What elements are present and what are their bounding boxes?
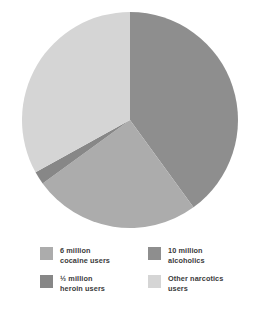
legend-item-heroin: ½ million heroin users (40, 274, 148, 302)
chart-legend: 6 million cocaine users 10 million alcoh… (0, 246, 260, 306)
legend-swatch-other-narcotics (148, 275, 161, 288)
legend-label-alcoholics: 10 million alcoholics (168, 246, 205, 267)
legend-item-other-narcotics: Other narcotics users (148, 274, 260, 302)
legend-swatch-heroin (40, 275, 53, 288)
legend-label-heroin: ½ million heroin users (60, 274, 105, 295)
pie-chart-figure: 6 million cocaine users 10 million alcoh… (0, 0, 260, 310)
pie-slice-group (22, 12, 238, 228)
legend-label-other-narcotics: Other narcotics users (168, 274, 223, 295)
pie-chart-plot-area (0, 0, 260, 240)
legend-swatch-cocaine (40, 247, 53, 260)
legend-item-cocaine: 6 million cocaine users (40, 246, 148, 274)
pie-chart-svg (0, 0, 260, 240)
legend-item-alcoholics: 10 million alcoholics (148, 246, 260, 274)
legend-swatch-alcoholics (148, 247, 161, 260)
legend-label-cocaine: 6 million cocaine users (60, 246, 110, 267)
